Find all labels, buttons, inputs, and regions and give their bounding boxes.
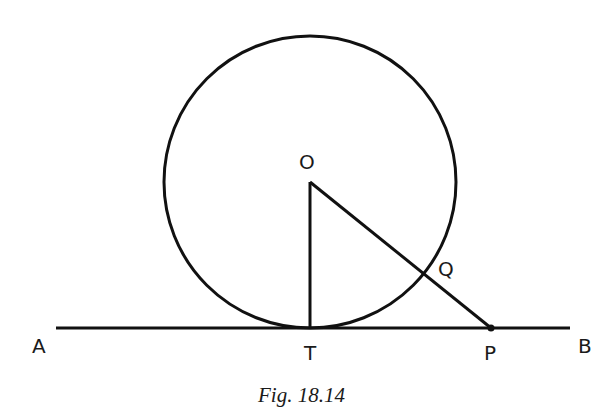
label-A: A bbox=[32, 334, 46, 358]
label-T: T bbox=[303, 341, 317, 365]
label-Q: Q bbox=[438, 257, 454, 281]
label-O: O bbox=[299, 150, 315, 174]
label-P: P bbox=[484, 341, 496, 365]
figure-caption: Fig. 18.14 bbox=[257, 383, 345, 407]
line-OP bbox=[310, 182, 491, 328]
point-P-marker bbox=[488, 325, 495, 332]
geometry-diagram: O Q A T P B Fig. 18.14 bbox=[0, 0, 613, 413]
figure-container: O Q A T P B Fig. 18.14 bbox=[0, 0, 613, 413]
label-B: B bbox=[578, 334, 592, 358]
